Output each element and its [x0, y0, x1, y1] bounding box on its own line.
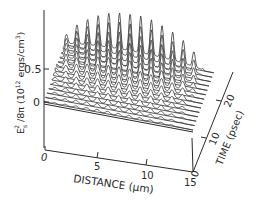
x-tick-label-0: 0	[41, 152, 47, 163]
z-axis-label: Es2 /8π (1012 ergs/cm3)	[13, 32, 28, 134]
x-tick-label-5: 5	[94, 161, 100, 172]
z-tick-label-05: 0.5	[24, 63, 42, 76]
x-tick-5	[97, 152, 98, 158]
x-tick-label-10: 10	[141, 170, 154, 181]
y-tick-20	[216, 100, 221, 101]
x-tick-10	[146, 159, 147, 165]
x-axis-line	[45, 150, 193, 172]
z-tick-label-0: 0	[33, 96, 40, 109]
waterfall-chart: 0.5 0 0 5 10 15 DISTANCE (μm) 0 10 20 TI…	[0, 0, 259, 204]
x-tick-label-15: 15	[184, 177, 197, 188]
front-corner-post	[192, 138, 193, 172]
y-tick-10	[201, 137, 206, 138]
surface-traces	[44, 13, 214, 130]
